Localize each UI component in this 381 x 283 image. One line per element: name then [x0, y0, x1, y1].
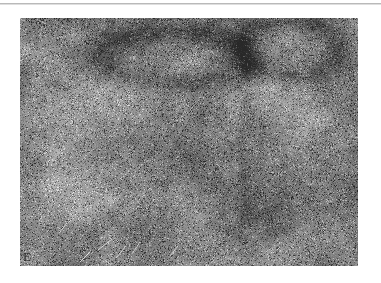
page-horizontal-rule-shadow: [0, 4, 381, 5]
micrograph-figure: E: [20, 18, 358, 266]
panel-letter-label: E: [23, 250, 31, 263]
micrograph-image: [20, 18, 358, 266]
